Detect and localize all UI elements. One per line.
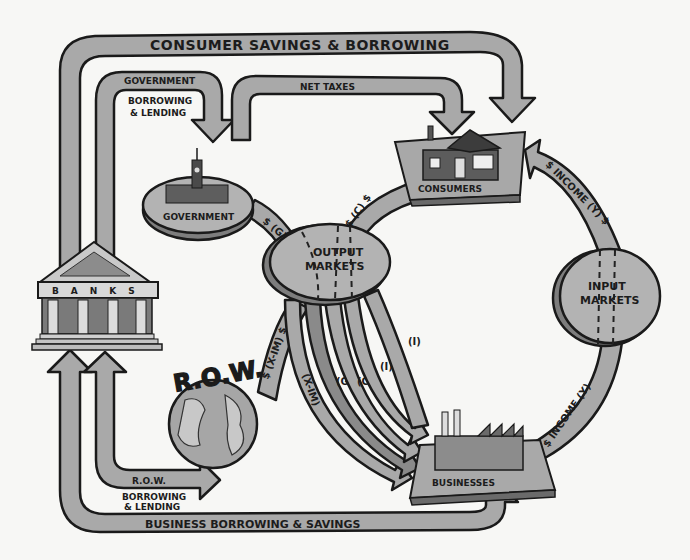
net-taxes-arrow: NET TAXES: [232, 76, 474, 140]
circular-flow-diagram: CONSUMER SAVINGS & BORROWING GOVERNMENT …: [0, 0, 690, 560]
income-to-consumers-flow: $ INCOME (Y) $: [525, 140, 620, 255]
net-taxes-label: NET TAXES: [300, 82, 355, 92]
output-markets-label-line2: MARKETS: [305, 260, 364, 273]
consumers-label: CONSUMERS: [418, 184, 482, 194]
government-borrowing-label-line3: & LENDING: [130, 108, 186, 118]
row-borrowing-label-line3: & LENDING: [124, 502, 180, 512]
input-markets-label-line2: MARKETS: [580, 294, 639, 307]
row-borrowing-label-line1: R.O.W.: [132, 476, 166, 486]
input-markets-label-line1: INPUT: [588, 280, 626, 293]
businesses-node: BUSINESSES: [410, 410, 555, 505]
income-top-label: $ INCOME (Y) $: [544, 159, 612, 227]
consumers-node: CONSUMERS: [395, 126, 525, 206]
income-from-businesses-flow: $ INCOME (Y): [535, 340, 622, 458]
government-borrowing-label-line1: GOVERNMENT: [124, 76, 196, 86]
output-to-businesses-flows: (X-IM) (G) (C) (I) (I): [285, 290, 428, 490]
consumer-savings-borrowing-label: CONSUMER SAVINGS & BORROWING: [150, 37, 450, 53]
row-node: R.O.W.: [169, 355, 265, 468]
business-borrowing-savings-label: BUSINESS BORROWING & SAVINGS: [145, 518, 361, 531]
output-markets-label-line1: OUTPUT: [313, 246, 364, 259]
banks-node: BANKS: [32, 242, 162, 350]
government-label: GOVERNMENT: [163, 212, 235, 222]
banks-label: BANKS: [52, 286, 147, 296]
out-i2-label: (I): [408, 336, 421, 347]
government-node: GOVERNMENT: [143, 148, 253, 240]
row-borrowing-label-line2: BORROWING: [122, 492, 186, 502]
government-borrowing-label-line2: BORROWING: [128, 96, 192, 106]
businesses-label: BUSINESSES: [432, 478, 495, 488]
output-markets-node: OUTPUT MARKETS: [263, 224, 390, 305]
input-markets-node: INPUT MARKETS: [553, 249, 660, 346]
